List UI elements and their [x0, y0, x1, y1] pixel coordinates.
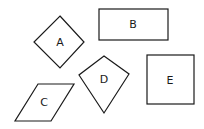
shape-e: E: [147, 55, 194, 104]
shape-d-label: D: [100, 73, 108, 86]
shape-a-label: A: [56, 36, 64, 49]
shape-b: B: [99, 9, 168, 40]
shapes-diagram: A B C D E: [0, 0, 204, 129]
shape-a: A: [34, 16, 84, 68]
shape-d: D: [79, 56, 129, 113]
shape-c: C: [15, 84, 74, 121]
shape-c-label: C: [40, 96, 48, 109]
shape-b-label: B: [129, 18, 137, 31]
shape-e-label: E: [167, 74, 174, 87]
